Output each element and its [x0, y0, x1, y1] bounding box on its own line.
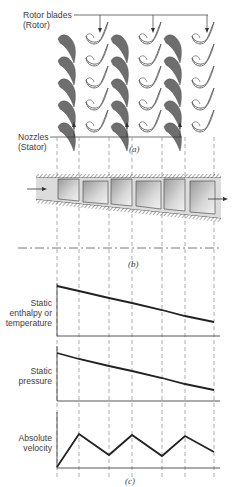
stator-label-line1: Nozzles	[18, 132, 49, 142]
graph-pressure: Static pressure	[19, 346, 220, 401]
rotor-label: Rotor blades (Rotor)	[23, 10, 209, 33]
stator-blades	[58, 35, 181, 151]
rotor-label-line1: Rotor blades	[23, 10, 72, 20]
rotor-blades	[86, 22, 214, 132]
blade-cascade	[58, 22, 214, 151]
enthalpy-label-3: temperature	[6, 318, 53, 328]
enthalpy-label-1: Static	[31, 298, 53, 308]
graph-enthalpy: Static enthalpy or temperature	[6, 283, 220, 336]
velocity-label-2: velocity	[23, 443, 52, 453]
velocity-label-1: Absolute	[19, 433, 53, 443]
turbine-stage-diagram: Rotor blades (Rotor) Nozzles (Stator) (a…	[0, 0, 237, 487]
graph-velocity: Absolute velocity	[19, 412, 220, 468]
enthalpy-label-2: enthalpy or	[9, 308, 52, 318]
flow-channel	[18, 174, 228, 248]
caption-c: (c)	[125, 476, 135, 486]
caption-a: (a)	[129, 144, 140, 154]
caption-b: (b)	[128, 259, 139, 269]
stator-label-line2: (Stator)	[18, 142, 47, 152]
pressure-label-1: Static	[31, 366, 53, 376]
stator-label: Nozzles (Stator)	[18, 122, 182, 152]
rotor-label-line2: (Rotor)	[23, 20, 50, 30]
pressure-label-2: pressure	[19, 376, 53, 386]
